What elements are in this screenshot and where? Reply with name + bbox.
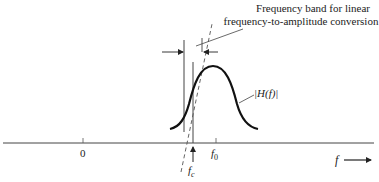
annotation-leader bbox=[196, 29, 243, 46]
magnitude-response-curve bbox=[170, 66, 258, 129]
annotation-line-1: Frequency band for linear bbox=[256, 2, 370, 14]
fc-label: fc bbox=[188, 164, 195, 179]
curve-label-leader bbox=[239, 95, 254, 103]
frequency-response-diagram: 0 f0 fc Frequency band for linear freque… bbox=[0, 0, 379, 182]
frequency-variable-label: f bbox=[335, 153, 340, 167]
annotation-line-2: frequency-to-amplitude conversion bbox=[224, 15, 379, 27]
zero-label: 0 bbox=[80, 147, 86, 159]
f0-label: f0 bbox=[211, 147, 218, 162]
curve-label: |H(f)| bbox=[254, 87, 278, 100]
